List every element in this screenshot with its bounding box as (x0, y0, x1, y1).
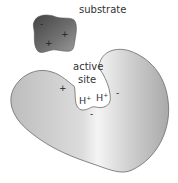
hydrogen-ion-left: H+ (79, 94, 91, 106)
active-site-label-line1: active (73, 61, 103, 72)
hydrogen-ion-left-symbol: H (79, 95, 86, 106)
enzyme-substrate-diagram: - + + substrate active site + - - H+ H+ (0, 0, 178, 183)
hydrogen-ion-left-charge: + (86, 94, 91, 101)
active-site-charge-minus-bottom: - (90, 109, 93, 119)
substrate-charge-plus-right: + (61, 29, 69, 39)
hydrogen-ion-right: H+ (96, 91, 108, 103)
substrate-label: substrate (79, 4, 126, 15)
substrate-charge-minus: - (40, 19, 43, 29)
substrate-charge-plus-left: + (45, 38, 53, 48)
active-site-charge-plus: + (59, 83, 67, 93)
hydrogen-ion-right-charge: + (103, 91, 108, 98)
active-site-label-line2: site (78, 74, 96, 85)
hydrogen-ion-right-symbol: H (96, 92, 103, 103)
substrate: - + + (33, 15, 76, 52)
active-site-charge-minus-right: - (116, 88, 119, 98)
